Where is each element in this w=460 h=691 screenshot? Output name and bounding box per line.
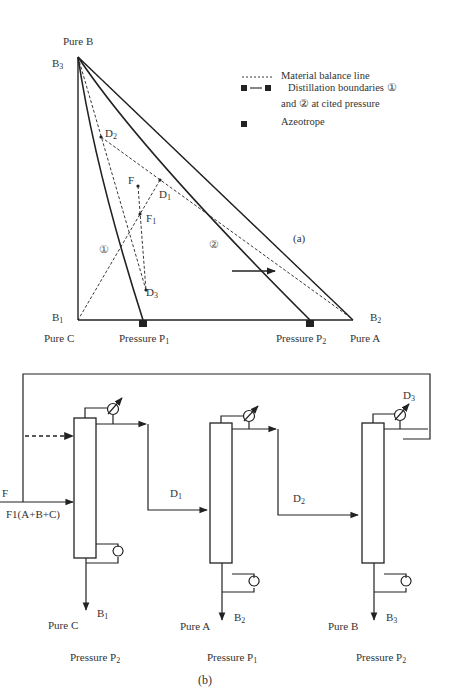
boundary-1-label: ① — [99, 244, 109, 255]
feed-label: F — [2, 488, 8, 499]
col2-pressure: Pressure P1 — [207, 652, 257, 665]
col1-bottoms: B1 — [97, 608, 108, 621]
stream-d1: D1 — [170, 488, 182, 501]
col2-product: Pure A — [180, 621, 210, 632]
stream-d3: D3 — [403, 390, 415, 403]
vertex-br-stream: B2 — [370, 312, 381, 325]
point-f1: F1 — [146, 213, 156, 226]
column-2 — [210, 423, 232, 563]
legend-material-balance: Material balance line — [281, 71, 370, 82]
point-d3: D3 — [146, 287, 158, 300]
diagram-canvas — [0, 0, 460, 691]
column-1 — [74, 418, 96, 558]
vertex-br-name: Pure A — [350, 333, 380, 344]
col1-product: Pure C — [48, 620, 78, 631]
vertex-bl-stream: B1 — [52, 312, 63, 325]
col3-product: Pure B — [328, 621, 358, 632]
boundary-2-label: ② — [209, 239, 219, 250]
col1-pressure: Pressure P2 — [70, 652, 120, 665]
panel-b-caption: (b) — [198, 674, 212, 686]
panel-a-caption: (a) — [293, 233, 305, 244]
vertex-top-name: Pure B — [63, 36, 93, 47]
distillation-boundary-1 — [78, 57, 143, 320]
azeotrope-p2-label: Pressure P2 — [276, 333, 326, 346]
azeotrope-p1-label: Pressure P1 — [119, 333, 169, 346]
col3-pressure: Pressure P2 — [356, 652, 406, 665]
vertex-bl-name: Pure C — [44, 333, 74, 344]
distillation-boundary-2 — [78, 57, 310, 320]
point-d1: D1 — [159, 189, 171, 202]
point-f: F — [128, 175, 134, 186]
column-3 — [362, 423, 384, 563]
azeotrope-p1 — [139, 320, 147, 327]
legend-distillation-1: Distillation boundaries ① — [288, 83, 397, 94]
col3-bottoms: B3 — [386, 612, 397, 625]
flowsheet — [0, 374, 430, 620]
point-d2: D2 — [105, 128, 117, 141]
stream-d2: D2 — [293, 493, 305, 506]
col2-bottoms: B2 — [234, 612, 245, 625]
azeotrope-p2 — [306, 320, 314, 327]
vertex-top-stream: B3 — [52, 58, 63, 71]
feed-composition: F1(A+B+C) — [6, 509, 60, 520]
legend-distillation-2: and ② at cited pressure — [281, 99, 380, 110]
legend-azeotrope: Azeotrope — [281, 117, 325, 128]
